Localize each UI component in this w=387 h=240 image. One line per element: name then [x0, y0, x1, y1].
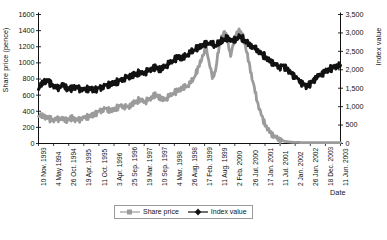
- data-series-group: [39, 29, 341, 143]
- series-share-price: [39, 29, 341, 143]
- square-marker-icon: [120, 208, 140, 216]
- legend-item-share-price: Share price: [120, 208, 179, 216]
- legend-label-index-value: Index value: [211, 208, 247, 215]
- legend-item-index-value: Index value: [188, 208, 247, 216]
- chart-legend: Share price Index value: [114, 205, 253, 219]
- plot-area: [0, 0, 387, 240]
- diamond-marker-icon: [188, 208, 208, 216]
- share-price-index-chart: Share price (pence) Index value Date 020…: [0, 0, 387, 240]
- legend-label-share-price: Share price: [143, 208, 179, 215]
